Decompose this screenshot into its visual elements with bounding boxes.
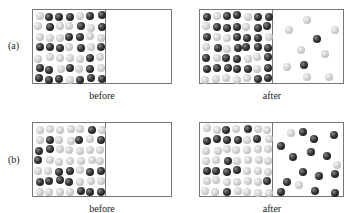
molecule-cluster-right <box>273 10 343 83</box>
molecule-icon <box>86 12 94 20</box>
molecule-icon <box>264 168 272 176</box>
molecule-icon <box>254 189 262 197</box>
molecule-icon <box>44 167 52 175</box>
molecule-icon <box>330 131 338 139</box>
molecule-icon <box>242 43 250 51</box>
molecule-icon <box>297 46 305 54</box>
molecule-icon <box>56 34 64 42</box>
molecule-icon <box>214 147 222 155</box>
molecule-icon <box>75 65 83 73</box>
molecule-icon <box>34 55 42 63</box>
molecule-icon <box>299 168 307 176</box>
molecule-icon <box>45 188 53 196</box>
molecule-icon <box>76 166 84 174</box>
molecule-icon <box>203 137 211 145</box>
molecule-icon <box>244 156 252 164</box>
molecule-icon <box>56 22 64 30</box>
molecule-icon <box>203 167 211 175</box>
molecule-cluster-right <box>273 123 343 196</box>
molecule-icon <box>76 12 84 20</box>
molecule-icon <box>243 136 251 144</box>
molecule-icon <box>76 76 84 84</box>
molecule-icon <box>45 66 53 74</box>
molecule-icon <box>56 176 64 184</box>
molecule-icon <box>55 136 63 144</box>
molecule-icon <box>254 24 262 32</box>
molecule-icon <box>65 22 73 30</box>
molecule-icon <box>233 157 241 165</box>
molecule-icon <box>86 54 94 62</box>
molecule-icon <box>77 44 85 52</box>
row-a-before-container <box>32 9 172 84</box>
molecule-icon <box>34 22 42 30</box>
molecule-icon <box>46 156 54 164</box>
molecule-icon <box>244 13 252 21</box>
molecule-icon <box>313 35 321 43</box>
molecule-icon <box>223 24 231 32</box>
molecule-icon <box>201 76 209 84</box>
molecule-icon <box>254 13 262 21</box>
row-b-label: (b) <box>8 154 20 165</box>
molecule-icon <box>224 64 232 72</box>
molecule-icon <box>67 137 75 145</box>
molecule-icon <box>321 50 329 58</box>
molecule-icon <box>202 147 210 155</box>
molecule-icon <box>36 64 44 72</box>
molecule-icon <box>46 145 54 153</box>
molecule-icon <box>87 43 95 51</box>
molecule-icon <box>213 12 221 20</box>
molecule-icon <box>254 167 262 175</box>
molecule-icon <box>263 177 271 185</box>
molecule-icon <box>283 63 291 71</box>
molecule-icon <box>66 167 74 175</box>
molecule-icon <box>46 34 54 42</box>
molecule-icon <box>76 147 84 155</box>
partition-wall <box>105 10 106 83</box>
molecule-icon <box>265 135 273 143</box>
molecule-icon <box>233 55 241 63</box>
molecule-icon <box>202 157 210 165</box>
molecule-icon <box>86 146 94 154</box>
molecule-icon <box>45 177 53 185</box>
molecule-icon <box>233 23 241 31</box>
molecule-icon <box>46 23 54 31</box>
molecule-icon <box>224 157 232 165</box>
molecule-icon <box>87 24 95 32</box>
molecule-icon <box>97 188 105 196</box>
molecule-icon <box>75 136 83 144</box>
molecule-cluster-left <box>200 123 272 196</box>
molecule-icon <box>56 145 64 153</box>
molecule-icon <box>310 135 318 143</box>
molecule-icon <box>56 54 64 62</box>
molecule-icon <box>244 55 252 63</box>
molecule-icon <box>265 13 273 21</box>
molecule-icon <box>295 181 303 189</box>
molecule-icon <box>55 158 63 166</box>
molecule-icon <box>202 22 210 30</box>
molecule-icon <box>77 187 85 195</box>
row-b-before-container <box>32 122 172 197</box>
molecule-icon <box>331 189 339 197</box>
molecule-icon <box>98 126 106 134</box>
molecule-icon <box>254 125 262 133</box>
molecule-icon <box>331 26 339 34</box>
molecule-icon <box>232 146 240 154</box>
molecule-icon <box>203 33 211 41</box>
molecule-icon <box>233 11 241 19</box>
molecule-icon <box>76 125 84 133</box>
molecule-icon <box>98 23 106 31</box>
molecule-icon <box>56 188 64 196</box>
molecule-icon <box>223 45 231 53</box>
molecule-icon <box>36 33 44 41</box>
molecule-icon <box>253 135 261 143</box>
molecule-icon <box>283 178 291 186</box>
molecule-icon <box>223 145 231 153</box>
molecule-icon <box>299 128 307 136</box>
molecule-icon <box>244 177 252 185</box>
molecule-icon <box>325 73 333 81</box>
molecule-icon <box>212 156 220 164</box>
molecule-icon <box>65 43 73 51</box>
molecule-icon <box>265 189 273 197</box>
molecule-icon <box>98 75 106 83</box>
molecule-icon <box>277 142 285 150</box>
